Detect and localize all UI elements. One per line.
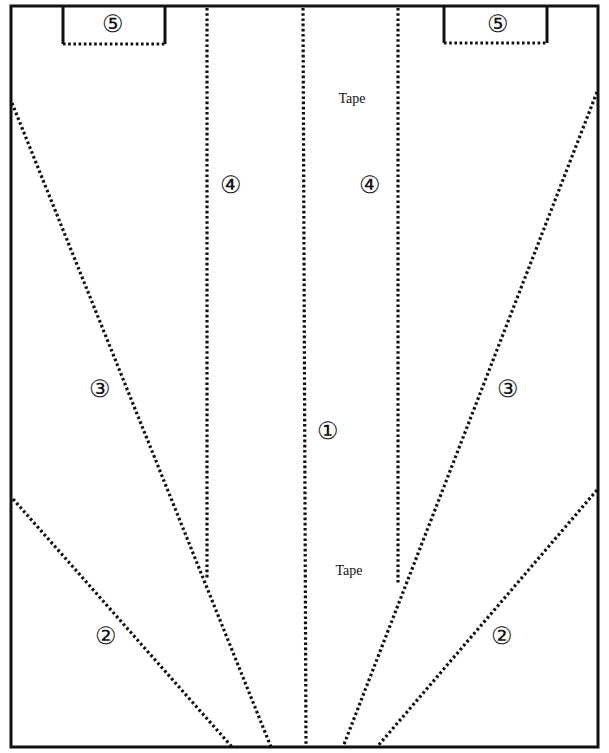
floor-layout-diagram: ⑤ ⑤ Tape ④ ④ ③ ③ ① Tape ② ② — [0, 0, 609, 753]
line-1-left — [303, 8, 306, 747]
label-3-left: ③ — [89, 377, 111, 401]
label-tape-bottom: Tape — [335, 563, 362, 579]
line-2-left — [13, 499, 232, 747]
line-2-right — [377, 490, 597, 747]
label-5-left: ⑤ — [102, 12, 124, 36]
label-5-right: ⑤ — [487, 12, 509, 36]
zone-5-boxes — [63, 6, 547, 44]
label-2-left: ② — [95, 624, 117, 648]
label-3-right: ③ — [497, 377, 519, 401]
label-4-left: ④ — [220, 173, 242, 197]
label-1: ① — [317, 419, 339, 443]
label-2-right: ② — [491, 624, 513, 648]
line-3-right — [343, 92, 597, 747]
line-3-left — [12, 103, 271, 747]
label-tape-top: Tape — [338, 91, 365, 107]
label-4-right: ④ — [359, 173, 381, 197]
